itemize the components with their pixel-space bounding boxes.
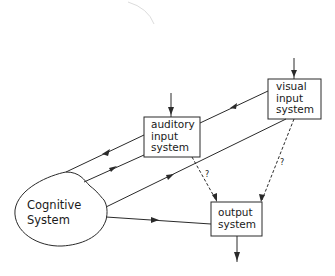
visual-input-label: visual input system bbox=[276, 81, 314, 116]
cognitive-system-label: Cognitive System bbox=[27, 198, 81, 228]
faint-arc bbox=[128, 2, 154, 24]
output-label: output system bbox=[218, 207, 256, 230]
question-mark-auditory-output: ? bbox=[205, 170, 209, 179]
auditory-input-label: auditory input system bbox=[151, 119, 195, 154]
edge-visual-to-output-dashed bbox=[262, 119, 294, 200]
edge-cognitive-to-output bbox=[106, 217, 211, 224]
question-mark-visual-output: ? bbox=[280, 158, 284, 167]
edge-auditory-to-output-dashed bbox=[192, 157, 216, 200]
